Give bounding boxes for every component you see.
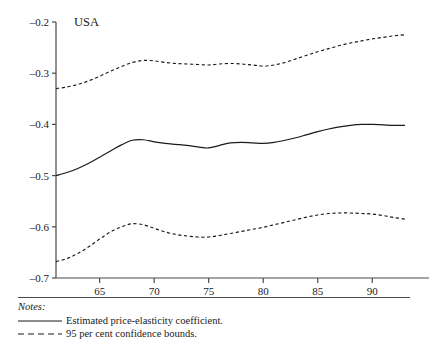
notes-divider	[18, 297, 410, 298]
series-line	[56, 35, 405, 89]
x-tick-label: 75	[203, 285, 215, 297]
legend-label-estimated-coefficient: Estimated price-elasticity coefficient.	[66, 314, 223, 327]
y-tick-label: –0.6	[29, 221, 50, 233]
solid-line-sample	[18, 316, 62, 326]
x-axis-ticks: 657075808590	[94, 278, 378, 297]
price-elasticity-line-chart: –0.2–0.3–0.4–0.5–0.6–0.7 657075808590 US…	[0, 0, 429, 300]
series-line	[56, 124, 405, 175]
x-tick-label: 65	[94, 285, 106, 297]
y-tick-label: –0.5	[29, 170, 50, 182]
legend-item-confidence-bounds: 95 per cent confidence bounds.	[18, 327, 418, 340]
notes-block: Notes: Estimated price-elasticity coeffi…	[18, 297, 418, 340]
notes-heading: Notes:	[18, 301, 418, 313]
series-line	[56, 213, 405, 262]
y-tick-label: –0.7	[29, 272, 50, 284]
panel-title: USA	[74, 15, 99, 29]
y-axis-ticks: –0.2–0.3–0.4–0.5–0.6–0.7	[29, 16, 56, 284]
dashed-line-sample	[18, 329, 62, 339]
figure-usa-price-elasticity: –0.2–0.3–0.4–0.5–0.6–0.7 657075808590 US…	[0, 0, 429, 345]
legend-item-estimated-coefficient: Estimated price-elasticity coefficient.	[18, 314, 418, 327]
x-tick-label: 90	[367, 285, 379, 297]
x-tick-label: 70	[149, 285, 161, 297]
y-tick-label: –0.2	[29, 16, 49, 28]
legend-label-confidence-bounds: 95 per cent confidence bounds.	[66, 327, 197, 340]
plot-area: –0.2–0.3–0.4–0.5–0.6–0.7 657075808590 US…	[0, 0, 429, 300]
y-tick-label: –0.4	[29, 118, 50, 130]
x-tick-label: 85	[312, 285, 324, 297]
x-tick-label: 80	[258, 285, 270, 297]
y-tick-label: –0.3	[29, 67, 50, 79]
data-series	[56, 35, 405, 262]
